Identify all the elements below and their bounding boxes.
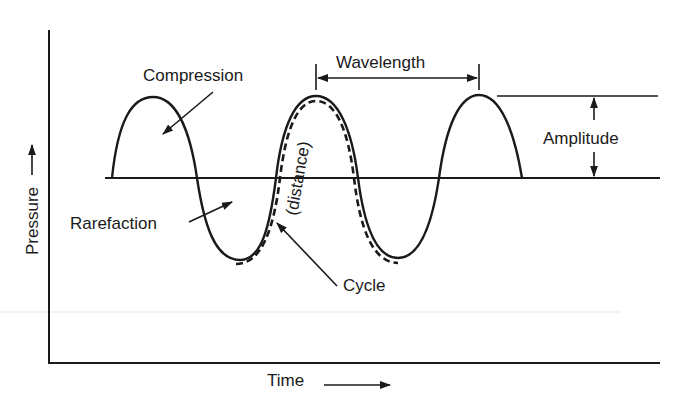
axes: [48, 30, 660, 364]
y-axis-label-group: Pressure: [23, 145, 42, 255]
compression-label: Compression: [143, 66, 243, 85]
amplitude-indicator: Amplitude: [497, 96, 658, 176]
cycle-arrow-icon: [277, 223, 337, 286]
sound-wave-diagram: Pressure Time Compression Rarefaction (d…: [0, 0, 686, 405]
x-axis-label: Time: [267, 371, 304, 390]
rarefaction-arrow-icon: [189, 202, 232, 222]
cycle-label: Cycle: [343, 276, 386, 295]
y-axis-label: Pressure: [23, 187, 42, 255]
wavelength-label: Wavelength: [336, 53, 425, 72]
wavelength-bracket: Wavelength: [316, 53, 479, 90]
compression-arrow-icon: [163, 92, 213, 134]
amplitude-label: Amplitude: [543, 129, 619, 148]
rarefaction-label: Rarefaction: [70, 214, 157, 233]
